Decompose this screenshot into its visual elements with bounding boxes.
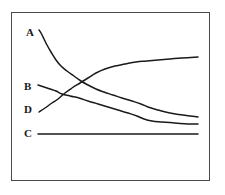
series-label-b: B	[24, 81, 31, 92]
series-line-d	[39, 57, 198, 112]
series-line-a	[39, 30, 198, 117]
line-chart: A B D C	[0, 0, 225, 195]
series-line-b	[38, 85, 198, 124]
series-label-a: A	[26, 27, 34, 38]
series-label-d: D	[24, 104, 32, 115]
series-label-c: C	[24, 128, 32, 139]
